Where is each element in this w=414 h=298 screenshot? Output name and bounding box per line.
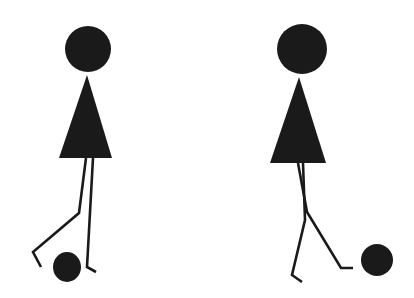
head <box>277 24 327 74</box>
leg <box>33 158 86 267</box>
illustration-canvas <box>0 0 414 298</box>
leg <box>298 163 353 268</box>
leg <box>87 158 96 272</box>
stick-figures-illustration <box>0 0 414 298</box>
figure-right <box>270 24 393 282</box>
figure-left <box>33 26 112 282</box>
ball <box>361 244 393 276</box>
ball <box>53 252 81 282</box>
head <box>65 26 111 72</box>
leg <box>292 163 305 282</box>
triangle-body <box>270 77 326 163</box>
triangle-body <box>59 75 112 158</box>
